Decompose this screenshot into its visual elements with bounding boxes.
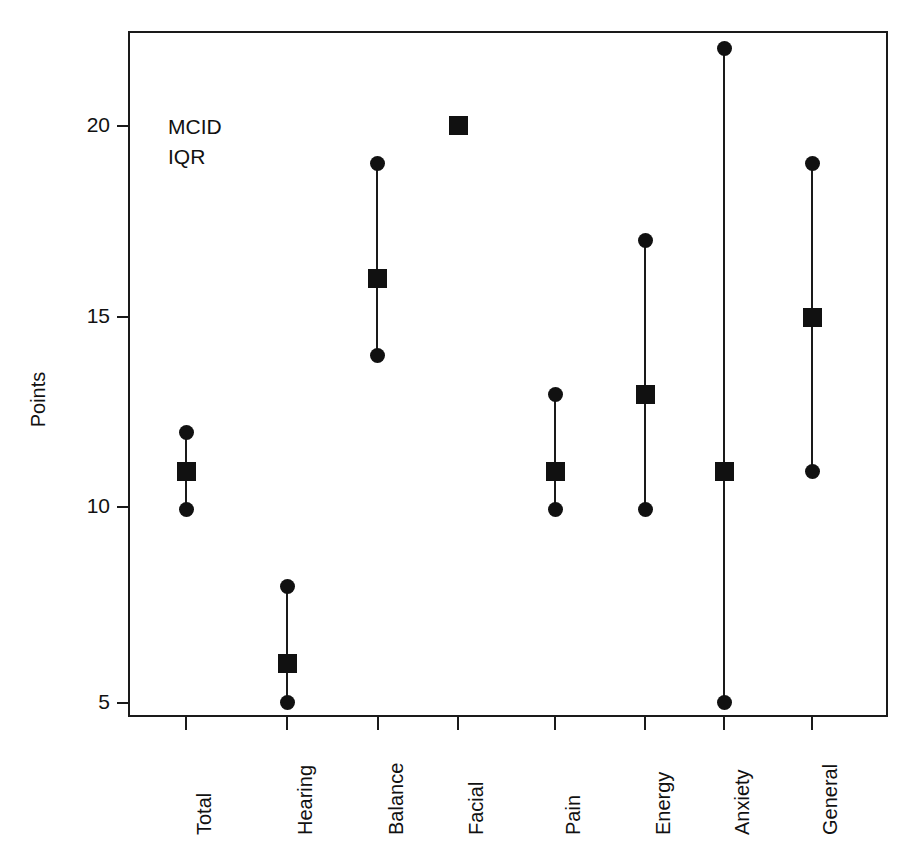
y-tick-mark-10 [117, 506, 128, 508]
mcid-marker-hearing [278, 654, 297, 673]
x-tick-mark-anxiety [723, 717, 725, 730]
chart-title [0, 0, 907, 1]
mcid-marker-anxiety [715, 462, 734, 481]
x-tick-mark-general [811, 717, 813, 730]
y-tick-label-5: 5 [50, 691, 110, 712]
mcid-marker-energy [636, 385, 655, 404]
legend-entry-iqr: IQR [168, 142, 222, 172]
x-tick-mark-facial [457, 717, 459, 730]
x-tick-label-balance: Balance [386, 763, 406, 835]
x-tick-mark-balance [377, 717, 379, 730]
x-tick-label-energy: Energy [653, 772, 673, 835]
iqr-lower-dot-anxiety [717, 695, 732, 710]
y-tick-mark-20 [117, 125, 128, 127]
x-tick-mark-pain [554, 717, 556, 730]
iqr-whisker-hearing [286, 587, 288, 702]
y-tick-label-15: 15 [50, 305, 110, 326]
iqr-upper-dot-energy [638, 233, 653, 248]
y-tick-mark-15 [117, 316, 128, 318]
y-axis-tick-labels: 20 15 10 5 [35, 0, 110, 851]
mcid-marker-total [177, 462, 196, 481]
chart-figure: Points 20 15 10 5 Total Hearing Balance … [0, 0, 907, 851]
iqr-lower-dot-hearing [280, 695, 295, 710]
x-tick-label-hearing: Hearing [295, 765, 315, 835]
figure-caption [38, 838, 898, 851]
iqr-upper-dot-general [805, 156, 820, 171]
mcid-marker-general [803, 308, 822, 327]
iqr-upper-dot-anxiety [717, 41, 732, 56]
x-tick-mark-total [185, 717, 187, 730]
iqr-lower-dot-pain [548, 502, 563, 517]
legend-entry-mcid: MCID [168, 112, 222, 142]
mcid-marker-pain [546, 462, 565, 481]
x-tick-label-pain: Pain [563, 795, 583, 835]
x-tick-label-total: Total [194, 793, 214, 835]
iqr-upper-dot-balance [370, 156, 385, 171]
iqr-upper-dot-hearing [280, 579, 295, 594]
mcid-marker-facial [449, 116, 468, 135]
plot-frame [128, 31, 888, 717]
x-tick-mark-hearing [286, 717, 288, 730]
x-tick-label-facial: Facial [466, 782, 486, 835]
y-tick-label-10: 10 [50, 495, 110, 516]
iqr-lower-dot-total [179, 502, 194, 517]
iqr-upper-dot-pain [548, 387, 563, 402]
mcid-marker-balance [368, 269, 387, 288]
x-tick-label-anxiety: Anxiety [732, 769, 752, 835]
iqr-whisker-pain [554, 394, 556, 509]
iqr-whisker-anxiety [723, 48, 725, 702]
y-tick-label-20: 20 [50, 114, 110, 135]
iqr-whisker-energy [644, 240, 646, 509]
iqr-lower-dot-energy [638, 502, 653, 517]
x-tick-label-general: General [820, 764, 840, 835]
chart-legend: MCID IQR [168, 112, 222, 172]
iqr-lower-dot-balance [370, 348, 385, 363]
iqr-whisker-balance [376, 163, 378, 355]
x-tick-mark-energy [644, 717, 646, 730]
iqr-upper-dot-total [179, 425, 194, 440]
iqr-lower-dot-general [805, 464, 820, 479]
y-tick-mark-5 [117, 702, 128, 704]
